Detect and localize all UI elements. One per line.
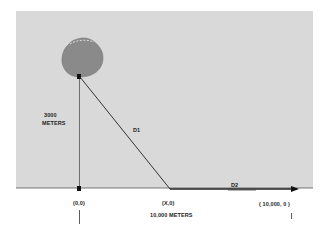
end-point-label: ( 10,000, 0 ) bbox=[259, 201, 290, 207]
origin-point bbox=[77, 186, 81, 191]
height-value-label: 3000 bbox=[44, 112, 57, 118]
d1-line bbox=[80, 77, 170, 189]
distance-label: 10,000 METERS bbox=[150, 212, 193, 218]
d2-label: D2 bbox=[231, 182, 238, 188]
d2-arrowhead bbox=[291, 186, 299, 192]
cloud-icon bbox=[62, 38, 103, 77]
height-unit-label: METERS bbox=[42, 120, 66, 126]
x-point-label: (X,0) bbox=[162, 200, 174, 206]
origin-label: (0,0) bbox=[73, 200, 85, 206]
d1-label: D1 bbox=[133, 127, 140, 133]
